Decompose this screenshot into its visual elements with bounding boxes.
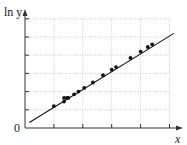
data-point	[52, 104, 56, 108]
data-point	[110, 68, 114, 72]
data-point	[139, 50, 143, 54]
y-axis-arrow-icon	[23, 9, 28, 16]
data-point	[82, 86, 86, 90]
data-point	[66, 96, 70, 100]
data-point	[91, 81, 95, 85]
fit-line	[29, 33, 174, 122]
data-point	[146, 45, 150, 49]
data-point	[150, 42, 154, 46]
chart: ln y 0 x	[0, 0, 187, 145]
data-point	[101, 73, 105, 77]
x-axis-label: x	[174, 132, 181, 145]
data-point	[72, 92, 76, 96]
x-axis-arrow-icon	[176, 126, 183, 131]
y-axis-label: ln y	[4, 5, 22, 19]
data-point	[129, 56, 133, 60]
data-points	[52, 42, 154, 108]
data-point	[114, 65, 118, 69]
data-point	[62, 100, 66, 104]
origin-label: 0	[14, 121, 20, 135]
data-point	[77, 90, 81, 94]
